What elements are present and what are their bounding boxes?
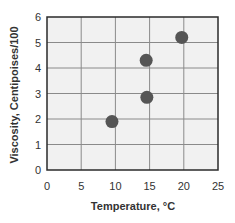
- x-axis-ticks: 0510152025: [44, 180, 224, 192]
- data-point-marker: [140, 91, 153, 104]
- y-tick-label: 5: [35, 37, 41, 49]
- data-point-marker: [105, 115, 118, 128]
- y-axis-ticks: 0123456: [35, 11, 41, 176]
- y-axis-label: Viscosity, Centipoises/100: [8, 26, 20, 163]
- y-tick-label: 3: [35, 88, 41, 100]
- x-tick-label: 10: [109, 180, 121, 192]
- x-axis-label: Temperature, °C: [91, 200, 175, 212]
- y-tick-label: 4: [35, 62, 41, 74]
- x-tick-label: 15: [143, 180, 155, 192]
- chart-canvas: 0510152025 0123456 Temperature, °C Visco…: [0, 0, 235, 223]
- x-tick-label: 20: [178, 180, 190, 192]
- x-tick-label: 5: [78, 180, 84, 192]
- scatter-chart: 0510152025 0123456 Temperature, °C Visco…: [0, 0, 235, 223]
- y-tick-label: 2: [35, 113, 41, 125]
- x-tick-label: 25: [212, 180, 224, 192]
- y-tick-label: 6: [35, 11, 41, 23]
- y-tick-label: 0: [35, 164, 41, 176]
- data-point-marker: [140, 54, 153, 67]
- data-point-marker: [175, 31, 188, 44]
- x-tick-label: 0: [44, 180, 50, 192]
- y-tick-label: 1: [35, 139, 41, 151]
